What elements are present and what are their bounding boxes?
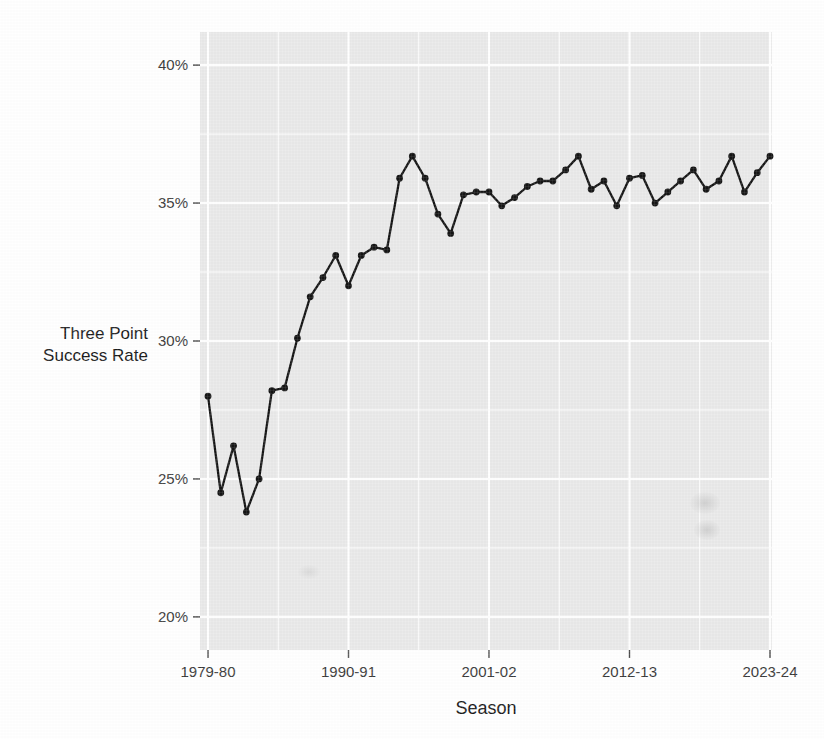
x-axis-tick-labels: 1979-801990-912001-022012-132023-24 xyxy=(180,663,797,680)
data-point xyxy=(435,211,442,218)
x-tick-label: 2023-24 xyxy=(742,663,797,680)
data-point xyxy=(281,385,288,392)
y-tick-label: 40% xyxy=(158,56,188,73)
data-point xyxy=(320,274,327,281)
data-point xyxy=(345,282,352,289)
x-tick-label: 2001-02 xyxy=(461,663,516,680)
x-tick-label: 1990-91 xyxy=(321,663,376,680)
data-point xyxy=(741,189,748,196)
data-point xyxy=(409,153,416,160)
data-point xyxy=(230,442,237,449)
data-point xyxy=(716,178,723,185)
y-tick-label: 30% xyxy=(158,332,188,349)
data-point xyxy=(575,153,582,160)
y-axis-title-line2: Success Rate xyxy=(43,346,148,365)
data-point xyxy=(332,252,339,259)
y-axis-tick-labels: 20%25%30%35%40% xyxy=(158,56,188,625)
data-point xyxy=(460,191,467,198)
data-point xyxy=(652,200,659,207)
data-point xyxy=(511,194,518,201)
y-axis-tickmarks xyxy=(193,65,200,617)
y-tick-label: 35% xyxy=(158,194,188,211)
line-chart: 20%25%30%35%40% 1979-801990-912001-02201… xyxy=(0,0,824,739)
data-point xyxy=(524,183,531,190)
data-point xyxy=(243,509,250,516)
data-point xyxy=(307,293,314,300)
data-point xyxy=(677,178,684,185)
x-axis-title: Season xyxy=(455,698,516,718)
data-point xyxy=(473,189,480,196)
data-point xyxy=(294,335,301,342)
data-point xyxy=(256,476,263,483)
data-point xyxy=(703,186,710,193)
data-point xyxy=(358,252,365,259)
data-point xyxy=(383,247,390,254)
data-point xyxy=(422,175,429,182)
y-tick-label: 20% xyxy=(158,608,188,625)
data-point xyxy=(537,178,544,185)
data-point xyxy=(690,167,697,174)
data-point xyxy=(268,387,275,394)
data-point xyxy=(498,202,505,209)
data-point xyxy=(767,153,774,160)
x-axis-tickmarks xyxy=(208,650,770,658)
y-tick-label: 25% xyxy=(158,470,188,487)
data-point xyxy=(486,189,493,196)
data-point xyxy=(639,172,646,179)
data-point xyxy=(626,175,633,182)
data-point xyxy=(217,489,224,496)
data-point xyxy=(205,393,212,400)
x-tick-label: 2012-13 xyxy=(602,663,657,680)
data-point xyxy=(562,167,569,174)
data-point xyxy=(613,202,620,209)
data-point xyxy=(371,244,378,251)
data-point xyxy=(754,169,761,176)
y-axis-title-line1: Three Point xyxy=(60,324,148,343)
data-point xyxy=(664,189,671,196)
data-point xyxy=(549,178,556,185)
x-tick-label: 1979-80 xyxy=(180,663,235,680)
data-point xyxy=(447,230,454,237)
data-point xyxy=(728,153,735,160)
data-point xyxy=(601,178,608,185)
data-point xyxy=(396,175,403,182)
chart-container: 20%25%30%35%40% 1979-801990-912001-02201… xyxy=(0,0,824,739)
data-point xyxy=(588,186,595,193)
